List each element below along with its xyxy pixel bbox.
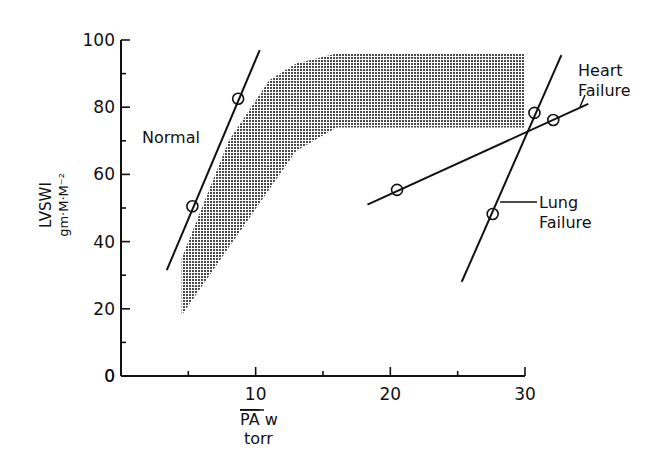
x-tick-label: 30 bbox=[514, 384, 536, 404]
stippled-region bbox=[182, 53, 525, 315]
label-heart: Heart bbox=[578, 61, 623, 80]
y-axis-unit: gm·M·M⁻² bbox=[56, 173, 71, 237]
label-normal: Normal bbox=[142, 128, 200, 147]
y-axis-label: LVSWI bbox=[37, 182, 55, 228]
y-tick-label: 20 bbox=[93, 299, 115, 319]
x-tick-label: 10 bbox=[245, 384, 267, 404]
x-tick-label: 20 bbox=[380, 384, 402, 404]
y-tick-label: 0 bbox=[104, 366, 115, 386]
x-axis-label-suffix: w bbox=[260, 410, 278, 429]
y-tick-label: 80 bbox=[93, 97, 115, 117]
x-axis-label: PA w bbox=[240, 410, 278, 429]
lvswi-vs-paw-chart: 0204060801001020300 Normal Heart Failure… bbox=[0, 0, 664, 470]
y-tick-label: 40 bbox=[93, 232, 115, 252]
x-axis-label-overlined: PA bbox=[240, 410, 260, 429]
x-axis-unit: torr bbox=[244, 429, 273, 448]
y-tick-label: 100 bbox=[83, 30, 115, 50]
label-heart-failure: Failure bbox=[578, 81, 631, 100]
label-lung-failure: Failure bbox=[539, 213, 592, 232]
normal-range-band bbox=[182, 53, 525, 315]
label-lung: Lung bbox=[539, 193, 578, 212]
chart-svg: 0204060801001020300 Normal Heart Failure… bbox=[0, 0, 664, 470]
y-tick-label: 60 bbox=[93, 164, 115, 184]
